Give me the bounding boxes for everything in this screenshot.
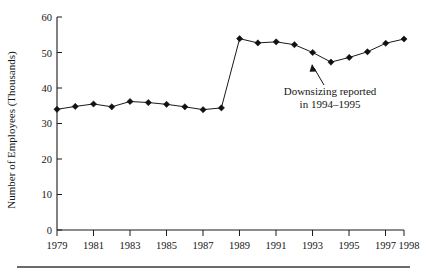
data-point — [237, 36, 243, 42]
data-point — [255, 40, 261, 46]
data-point — [90, 101, 96, 107]
annotation-line-2: in 1994–1995 — [300, 98, 361, 110]
x-tick-label: 1985 — [156, 240, 177, 251]
data-point — [328, 59, 334, 65]
x-tick-label: 1979 — [47, 240, 68, 251]
x-tick-label: 1989 — [229, 240, 250, 251]
x-tick-label: 1991 — [266, 240, 287, 251]
y-tick-label: 40 — [42, 83, 53, 94]
x-axis-tick-labels: 1979 1981 1983 1985 1987 1989 1991 1993 … — [47, 240, 420, 251]
annotation-line-1: Downsizing reported — [284, 85, 377, 97]
employees-line-chart: Number of Employees (Thousands) 60 50 40… — [0, 0, 427, 279]
x-tick-label: 1987 — [193, 240, 214, 251]
data-point — [163, 101, 169, 107]
data-point — [54, 106, 60, 112]
annotation-downsizing: Downsizing reported in 1994–1995 — [284, 64, 377, 110]
data-point — [72, 103, 78, 109]
data-point — [401, 36, 407, 42]
y-axis-ticks — [57, 17, 62, 230]
x-tick-label: 1983 — [120, 240, 141, 251]
data-point — [291, 42, 297, 48]
annotation-arrow-head — [310, 64, 317, 72]
y-tick-label: 30 — [42, 118, 53, 129]
y-axis-tick-labels: 60 50 40 30 20 10 0 — [42, 12, 53, 236]
y-tick-label: 0 — [47, 225, 52, 236]
data-point — [346, 54, 352, 60]
data-point — [383, 40, 389, 46]
x-tick-label: 1997 — [375, 240, 396, 251]
x-tick-label: 1993 — [302, 240, 323, 251]
chart-figure: Number of Employees (Thousands) 60 50 40… — [0, 0, 427, 279]
y-tick-label: 60 — [42, 12, 53, 23]
data-point — [218, 105, 224, 111]
data-point — [145, 99, 151, 105]
data-point — [182, 104, 188, 110]
data-point — [364, 49, 370, 55]
data-point — [127, 98, 133, 104]
data-point — [200, 107, 206, 113]
y-tick-label: 10 — [42, 189, 53, 200]
data-point — [310, 49, 316, 55]
y-tick-label: 20 — [42, 154, 53, 165]
x-tick-label: 1981 — [83, 240, 104, 251]
x-tick-label: 1995 — [339, 240, 360, 251]
data-point — [273, 39, 279, 45]
data-point — [109, 104, 115, 110]
y-tick-label: 50 — [42, 48, 53, 59]
x-tick-label: 1998 — [399, 240, 420, 251]
y-axis-title: Number of Employees (Thousands) — [5, 51, 18, 209]
x-axis-ticks — [57, 230, 404, 236]
